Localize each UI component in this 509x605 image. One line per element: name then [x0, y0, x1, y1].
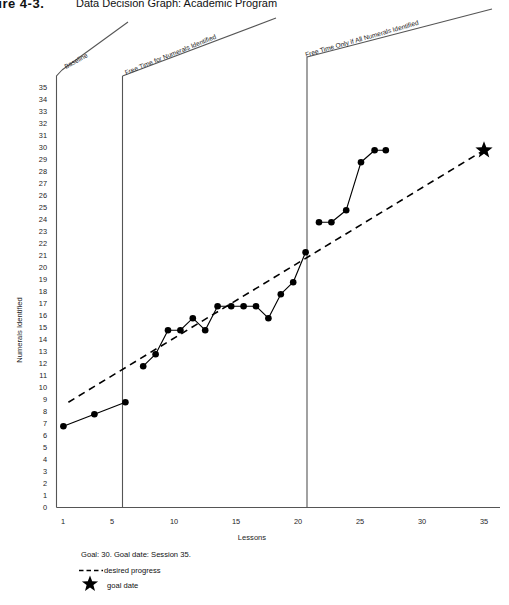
x-tick-1: 1	[61, 517, 65, 526]
data-point	[343, 207, 350, 214]
data-point	[140, 363, 147, 370]
legend-star-icon	[82, 576, 98, 591]
legend-goal-date-label: goal date	[107, 581, 138, 590]
y-tick-26: 26	[39, 191, 47, 200]
y-tick-3: 3	[43, 467, 47, 476]
data-point	[383, 147, 390, 154]
y-tick-33: 33	[39, 107, 47, 116]
y-tick-27: 27	[39, 179, 47, 188]
y-tick-19: 19	[39, 275, 47, 284]
y-tick-6: 6	[43, 431, 47, 440]
y-tick-14: 14	[39, 335, 47, 344]
legend-goal-statement: Goal: 30. Goal date: Session 35.	[81, 550, 191, 559]
y-tick-22: 22	[39, 239, 47, 248]
y-tick-11: 11	[39, 371, 47, 380]
y-tick-20: 20	[39, 263, 47, 272]
y-tick-32: 32	[39, 119, 47, 128]
y-tick-9: 9	[43, 395, 47, 404]
x-tick-30: 30	[418, 517, 426, 526]
data-point	[358, 159, 365, 166]
y-tick-2: 2	[43, 479, 47, 488]
data-point	[371, 147, 378, 154]
y-tick-28: 28	[39, 167, 47, 176]
y-tick-29: 29	[39, 155, 47, 164]
data-point	[152, 351, 159, 358]
y-tick-4: 4	[43, 455, 47, 464]
data-point	[253, 303, 260, 310]
series-baseline	[60, 399, 129, 430]
legend-desired-progress-label: desired progress	[104, 566, 161, 575]
data-point	[290, 279, 297, 286]
data-point	[91, 411, 98, 418]
y-axis-tick-labels: 35 34 33 32 31 30 29 28 27 26 25 24 23 2…	[39, 83, 47, 512]
y-tick-18: 18	[39, 287, 47, 296]
data-point	[316, 219, 323, 226]
data-point	[190, 315, 197, 322]
series-free-time-numerals	[140, 249, 309, 370]
x-tick-25: 25	[356, 517, 364, 526]
data-point	[328, 219, 335, 226]
y-tick-23: 23	[39, 227, 47, 236]
phase-leader-baseline	[57, 70, 63, 84]
x-tick-5: 5	[110, 517, 114, 526]
data-point	[202, 327, 209, 334]
phase-label-baseline: Baseline	[63, 51, 89, 70]
y-tick-16: 16	[39, 311, 47, 320]
x-tick-15: 15	[232, 517, 240, 526]
y-tick-34: 34	[39, 95, 47, 104]
y-tick-24: 24	[39, 215, 47, 224]
y-tick-7: 7	[43, 419, 47, 428]
x-tick-20: 20	[294, 517, 302, 526]
data-point	[302, 249, 309, 256]
phase-label-free-time-numerals: Free Time for Numerals Identified	[124, 33, 218, 76]
x-axis-tick-labels: 1 5 10 15 20 25 30 35	[61, 517, 488, 526]
data-point	[165, 327, 172, 334]
data-point	[265, 315, 272, 322]
y-tick-0: 0	[43, 503, 47, 512]
data-point	[240, 303, 247, 310]
data-point	[177, 327, 184, 334]
goal-date-star-icon	[475, 141, 492, 157]
y-tick-21: 21	[39, 251, 47, 260]
y-tick-5: 5	[43, 443, 47, 452]
phase-label-free-time-all-numerals: Free Time Only if All Numerals Identifie…	[304, 19, 420, 59]
chart-legend: Goal: 30. Goal date: Session 35. desired…	[79, 550, 191, 591]
y-tick-1: 1	[43, 491, 47, 500]
y-tick-35: 35	[39, 83, 47, 92]
data-point	[228, 303, 235, 310]
phase-leader-line-3	[307, 9, 492, 57]
x-tick-35: 35	[480, 517, 488, 526]
y-tick-12: 12	[39, 359, 47, 368]
data-point	[122, 399, 129, 406]
data-point	[278, 291, 285, 298]
y-axis-title: Numerals Identified	[15, 297, 24, 362]
y-tick-31: 31	[39, 131, 47, 140]
y-tick-8: 8	[43, 407, 47, 416]
y-tick-13: 13	[39, 347, 47, 356]
data-point	[214, 303, 221, 310]
data-point	[60, 423, 67, 430]
y-tick-17: 17	[39, 299, 47, 308]
y-tick-25: 25	[39, 203, 47, 212]
x-axis-title: Lessons	[238, 533, 266, 542]
data-decision-graph: 35 34 33 32 31 30 29 28 27 26 25 24 23 2…	[0, 0, 509, 605]
x-tick-10: 10	[170, 517, 178, 526]
desired-progress-line	[68, 150, 484, 402]
y-tick-15: 15	[39, 323, 47, 332]
y-tick-30: 30	[39, 143, 47, 152]
y-tick-10: 10	[39, 383, 47, 392]
